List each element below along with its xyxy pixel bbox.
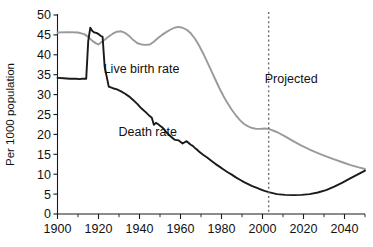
x-axis: 19001920194019601980200020202040 xyxy=(44,214,365,236)
live-birth-rate-label: Live birth rate xyxy=(104,62,180,76)
projected-label: Projected xyxy=(265,72,318,86)
x-tick-label: 2000 xyxy=(249,222,277,236)
y-tick-label: 25 xyxy=(37,108,51,122)
x-tick-label: 1900 xyxy=(44,222,72,236)
y-tick-label: 35 xyxy=(37,68,51,82)
series-line-death-rate xyxy=(58,28,366,195)
y-tick-label: 30 xyxy=(37,88,51,102)
x-tick-label: 2040 xyxy=(331,222,359,236)
y-tick-label: 45 xyxy=(37,28,51,42)
y-tick-label: 10 xyxy=(37,168,51,182)
annotation-group: Live birth rateDeath rateProjected xyxy=(104,62,318,140)
x-tick-label: 1940 xyxy=(126,222,154,236)
line-chart: 05101520253035404550 1900192019401960198… xyxy=(0,0,373,247)
chart-container: 05101520253035404550 1900192019401960198… xyxy=(0,0,373,247)
y-tick-label: 5 xyxy=(44,188,51,202)
death-rate-label: Death rate xyxy=(119,125,177,139)
y-axis: 05101520253035404550 xyxy=(37,8,57,221)
y-tick-label: 40 xyxy=(37,48,51,62)
y-tick-label: 0 xyxy=(44,207,51,221)
y-tick-label: 15 xyxy=(37,148,51,162)
y-tick-label: 50 xyxy=(37,8,51,22)
x-tick-label: 1980 xyxy=(208,222,236,236)
x-tick-label: 2020 xyxy=(290,222,318,236)
y-tick-label: 20 xyxy=(37,128,51,142)
y-axis-title-group: Per 1000 population xyxy=(4,63,16,166)
x-tick-label: 1920 xyxy=(85,222,113,236)
y-axis-title: Per 1000 population xyxy=(4,63,16,166)
x-tick-label: 1960 xyxy=(167,222,195,236)
data-series-group xyxy=(58,27,366,195)
